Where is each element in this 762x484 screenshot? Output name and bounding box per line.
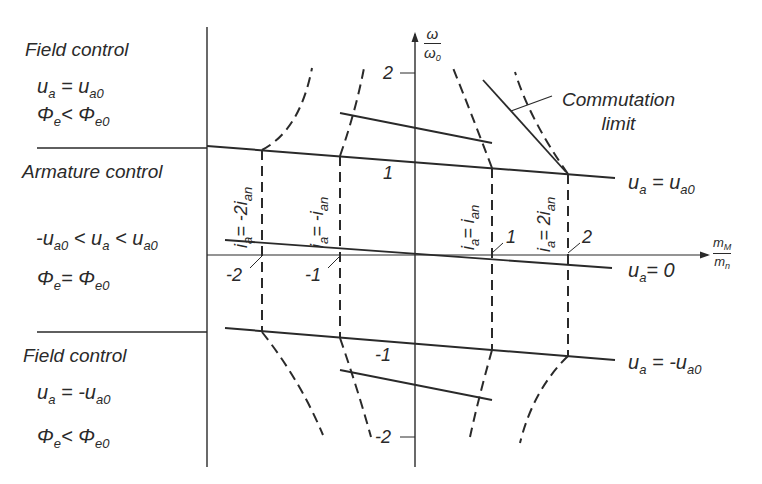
formula-phi-lt-phi0: Φe< Φe0 — [37, 104, 109, 128]
label-ua-eq-ua0: ua = ua0 — [628, 172, 695, 196]
line-lower-short — [340, 370, 492, 400]
x-tick-1: 1 — [506, 228, 516, 246]
region-title-armature-control: Armature control — [22, 162, 162, 181]
label-ua-eq-minus-ua0: ua = -ua0 — [628, 352, 701, 376]
torque-axis-label: mM mn — [713, 236, 731, 272]
formula-phi-lt-phi0-bottom: Φe< Φe0 — [37, 426, 109, 450]
line-ua-minus-ua0 — [225, 328, 615, 360]
line-upper-short — [340, 113, 492, 143]
formula-ua-eq-ua0: ua = ua0 — [37, 76, 104, 100]
y-tick-minus-1: -1 — [375, 346, 391, 364]
formula-phi-eq-phi0: Φe= Φe0 — [37, 268, 109, 292]
commutation-limit-line — [483, 80, 566, 172]
line-ua-ua0 — [207, 146, 615, 178]
label-ia-minus-ian: ia= -ian — [308, 197, 330, 248]
x-tick-minus-1: -1 — [305, 266, 321, 284]
label-ia-ian: ia= ian — [459, 205, 481, 250]
region-title-field-control-top: Field control — [25, 40, 129, 59]
formula-ua-range: -ua0 < ua < ua0 — [36, 228, 158, 252]
commutation-limit-label: Commutation limit — [562, 88, 675, 136]
x-tick-2: 2 — [582, 228, 592, 246]
y-tick-2: 2 — [383, 64, 393, 82]
x-tick-minus-2: -2 — [226, 266, 242, 284]
omega-axis-label: ω ω0 — [424, 26, 441, 63]
y-tick-1: 1 — [383, 164, 393, 182]
label-ua-eq-0: ua= 0 — [628, 260, 675, 284]
label-ia-2ian: ia= 2ian — [535, 197, 557, 252]
y-tick-minus-2: -2 — [375, 428, 391, 446]
label-ia-minus-2ian: ia= -2ian — [232, 187, 254, 248]
formula-ua-eq-minus-ua0: ua = -ua0 — [37, 382, 110, 406]
region-title-field-control-bottom: Field control — [23, 346, 127, 365]
